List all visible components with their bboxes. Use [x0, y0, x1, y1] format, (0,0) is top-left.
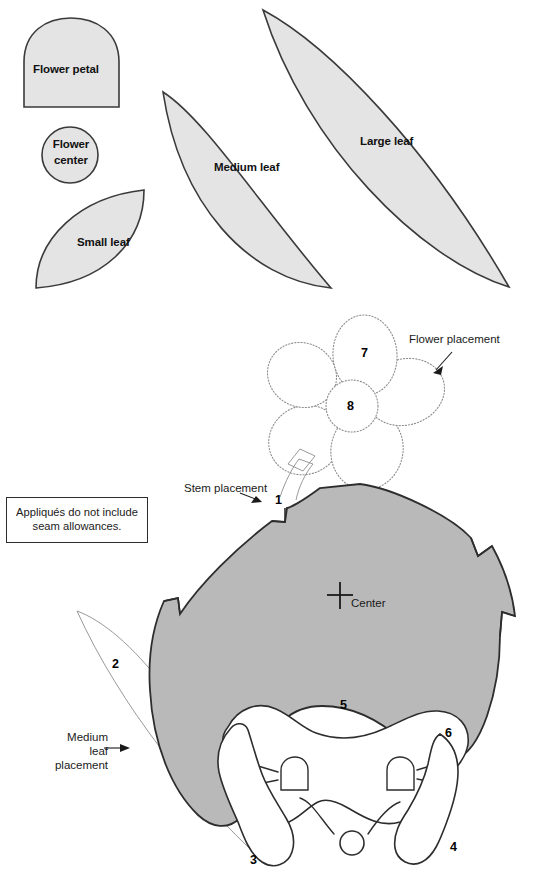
stem-placement-label: Stem placement: [184, 482, 267, 496]
egg-notch-top-left: [272, 508, 285, 522]
placement-number-4: 4: [450, 840, 457, 855]
medium-leaf-placement-label-line3: placement: [40, 759, 108, 773]
seam-allowance-note-line2: seam allowances.: [33, 520, 122, 532]
placement-number-1: 1: [275, 493, 282, 508]
placement-number-5: 5: [340, 698, 347, 713]
placement-number-2: 2: [112, 657, 119, 672]
stem-placement-arrowhead: [251, 496, 262, 503]
flower-placement-leader: [436, 352, 452, 370]
seam-allowance-note: Appliqués do not include seam allowances…: [6, 497, 148, 543]
placement-number-6: 6: [445, 726, 452, 741]
center-label: Center: [351, 597, 386, 611]
flower-center-label-line2: center: [40, 154, 102, 168]
pattern-sheet: Flower petal Flower center Small leaf Me…: [0, 0, 539, 890]
small-leaf-label: Small leaf: [77, 236, 130, 250]
medium-leaf-placement-label-line2: leaf: [56, 745, 108, 759]
flower-center-label-line1: Flower: [40, 138, 102, 152]
placement-number-8: 8: [347, 399, 354, 414]
flower-petal-label: Flower petal: [33, 63, 99, 77]
flower-placement-label: Flower placement: [409, 333, 500, 347]
placement-number-7: 7: [361, 346, 368, 361]
bunny-nose: [340, 831, 364, 855]
seam-allowance-note-line1: Appliqués do not include: [16, 506, 138, 518]
medium-leaf-label: Medium leaf: [214, 161, 279, 175]
egg-notch-right: [500, 612, 515, 636]
placement-number-3: 3: [250, 853, 257, 868]
medium-leaf-placement-label-line1: Medium: [56, 731, 108, 745]
large-leaf-label: Large leaf: [360, 135, 413, 149]
medium-leaf-shape[interactable]: [163, 92, 331, 288]
medium-leaf-placement-arrowhead: [120, 744, 130, 752]
